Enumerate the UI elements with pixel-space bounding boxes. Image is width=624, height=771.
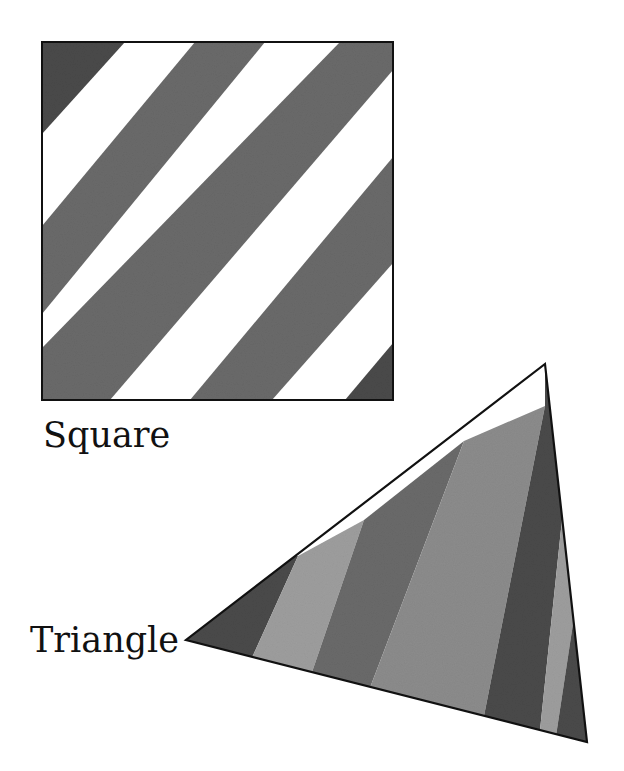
- square-stripe-1: [42, 42, 125, 134]
- triangle-label: Triangle: [30, 620, 179, 660]
- shapes-illustration: Square Triangle: [0, 0, 624, 771]
- square-shape: [42, 42, 393, 400]
- square-stripe-5: [345, 343, 393, 400]
- triangle-shape: [150, 340, 610, 760]
- square-label: Square: [43, 415, 170, 455]
